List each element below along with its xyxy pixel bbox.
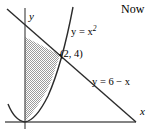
intersection-point-label: (2, 4) [60, 49, 83, 60]
line-equation-label: y = 6 − x [92, 77, 130, 88]
parabola-exponent: 2 [93, 24, 97, 33]
x-axis-label: x [140, 106, 145, 117]
figure-graphic [0, 0, 163, 136]
y-axis-label: y [29, 11, 34, 22]
parabola-equation-text: y = x [71, 26, 93, 37]
corner-note: Now [121, 3, 144, 15]
math-figure: y x y = x2 (2, 4) y = 6 − x Now [0, 0, 163, 136]
parabola-equation-label: y = x2 [71, 27, 96, 38]
